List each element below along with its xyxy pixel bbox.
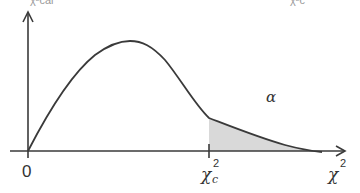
critical-label-sub: c (212, 173, 218, 186)
x-axis-label: χ (327, 164, 340, 184)
title-fragment-left: χ²cal (30, 0, 54, 6)
chi-square-diagram: χ²cal χ²c 0 χ 2 c χ 2 α (0, 0, 360, 193)
density-curve (28, 41, 322, 152)
critical-label-sup: 2 (213, 157, 219, 169)
title-fragment-right: χ²c (290, 0, 305, 6)
x-axis-label-sup: 2 (340, 157, 346, 169)
origin-label: 0 (22, 162, 31, 181)
alpha-label: α (266, 88, 276, 106)
rejection-region (209, 118, 322, 152)
